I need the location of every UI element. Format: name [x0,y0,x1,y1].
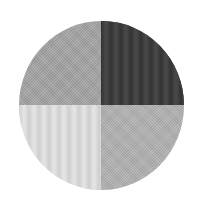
quadrant-top-right [101,21,184,105]
quadrant-disc [19,21,184,190]
quadrant-bottom-right [101,105,184,190]
quadrant-top-left [19,21,101,105]
quadrant-bottom-left [19,105,101,190]
